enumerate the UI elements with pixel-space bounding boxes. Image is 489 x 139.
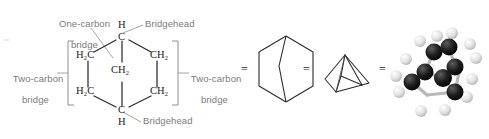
atom-upper-right-ch2: CH₂ xyxy=(150,49,168,60)
callout-two-carbon-bridge-left: Two-carbon bridge xyxy=(2,63,58,116)
hydrogen-atoms xyxy=(390,27,482,117)
chemistry-figure: One-carbon bridge Bridgehead Bridgehead … xyxy=(0,0,489,139)
callout-bridgehead-top: Bridgehead xyxy=(145,19,195,30)
atom-center-bridge-ch2: CH₂ xyxy=(111,64,129,75)
atom-bottom-bridgehead-h: H xyxy=(118,116,126,127)
atom-top-bridgehead-h: H xyxy=(118,19,126,30)
callout-one-carbon-bridge-line2: bridge xyxy=(71,39,98,50)
callout-two-carbon-bridge-left-line1: Two-carbon xyxy=(13,73,64,84)
callout-two-carbon-bridge-right: Two-carbon bridge xyxy=(180,63,238,116)
callout-two-carbon-bridge-right-line1: Two-carbon xyxy=(191,73,242,84)
callout-two-carbon-bridge-right-line2: bridge xyxy=(201,94,228,105)
equals-sign-1: = xyxy=(241,62,248,77)
atom-lower-left-ch2: H₂C xyxy=(76,85,94,96)
atom-top-bridgehead-c: C xyxy=(118,31,125,42)
atom-bottom-bridgehead-c: C xyxy=(118,104,125,115)
callout-one-carbon-bridge-line1: One-carbon xyxy=(59,18,110,29)
atom-lower-right-ch2: CH₂ xyxy=(150,85,168,96)
carbon-atoms xyxy=(404,39,464,101)
equals-sign-2: = xyxy=(303,62,310,77)
atom-upper-left-ch2: H₂C xyxy=(76,49,94,60)
equals-sign-3: = xyxy=(379,62,386,77)
callout-bridgehead-bottom: Bridgehead xyxy=(143,116,193,127)
callout-two-carbon-bridge-left-line2: bridge xyxy=(22,94,49,105)
